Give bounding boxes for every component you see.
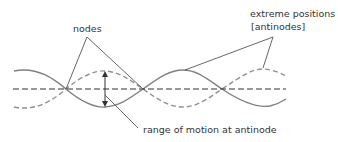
standing-wave-diagram: nodes extreme positions [antinodes] rang… <box>0 0 338 142</box>
range-label: range of motion at antinode <box>143 124 277 136</box>
nodes-label: nodes <box>73 23 102 35</box>
antinodes-label: [antinodes] <box>251 21 305 33</box>
antinode-pointer-left <box>185 37 273 70</box>
antinode-pointer-right <box>263 37 273 68</box>
range-pointer <box>105 95 138 128</box>
extreme-positions-label: extreme positions <box>250 8 335 20</box>
nodes-pointer-right <box>87 37 143 89</box>
arrow-head-up <box>102 71 108 77</box>
arrow-head-down <box>102 101 108 107</box>
nodes-pointer-left <box>66 37 87 89</box>
